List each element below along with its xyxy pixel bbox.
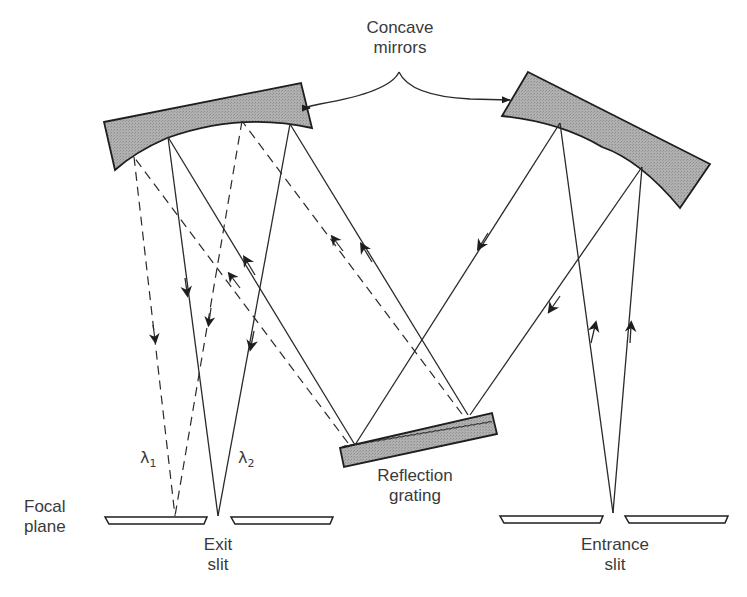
concave-mirrors-label: Concave mirrors [355, 18, 445, 58]
exit-slit-label-line2: slit [190, 555, 246, 575]
rays-collimator-to-grating [355, 123, 642, 445]
rays-grating-to-focuser-lambda2 [168, 124, 468, 445]
entrance-slit-label-line1: Entrance [565, 535, 665, 555]
reflection-grating-label-line1: Reflection [370, 466, 460, 486]
exit-slit-label: Exit slit [190, 535, 246, 575]
spectrometer-diagram [0, 0, 747, 597]
focal-plane-label-line2: plane [24, 517, 66, 537]
entrance-slit-label: Entrance slit [565, 535, 665, 575]
focal-plane-label-line1: Focal [24, 497, 66, 517]
concave-mirrors-callout [307, 72, 510, 108]
lambda1-subscript: 1 [149, 457, 156, 470]
reflection-grating-label-line2: grating [370, 486, 460, 506]
rays-grating-to-focuser-lambda1 [134, 121, 462, 443]
exit-slit-plates [105, 517, 333, 524]
entrance-slit-label-line2: slit [565, 555, 665, 575]
concave-mirrors-label-line2: mirrors [355, 38, 445, 58]
exit-slit-label-line1: Exit [190, 535, 246, 555]
lambda2-label: λ2 [238, 448, 254, 474]
focal-plane-label: Focal plane [24, 497, 66, 537]
right-concave-mirror [502, 72, 710, 208]
lambda1-label: λ1 [140, 448, 156, 474]
lambda2-subscript: 2 [247, 457, 254, 470]
rays-focuser-to-exit-lambda2 [168, 124, 290, 516]
rays-entrance-to-collimator [560, 123, 642, 513]
left-concave-mirror [104, 83, 312, 170]
entrance-slit-plates [500, 516, 728, 523]
reflection-grating [340, 413, 497, 467]
concave-mirrors-label-line1: Concave [355, 18, 445, 38]
arrows-lambda1-down [153, 308, 211, 339]
reflection-grating-label: Reflection grating [370, 466, 460, 506]
